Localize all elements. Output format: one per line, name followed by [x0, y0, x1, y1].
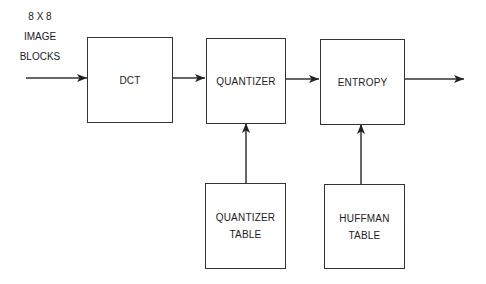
quantizer-block: QUANTIZER [206, 38, 286, 124]
input-label: 8 X 8 IMAGE BLOCKS [10, 7, 70, 67]
huffman-table-label-line: TABLE [349, 227, 381, 244]
quantizer-table-label-line: QUANTIZER [216, 209, 276, 226]
input-label-line: 8 X 8 [10, 7, 70, 27]
quantizer-label: QUANTIZER [216, 73, 276, 90]
input-label-line: BLOCKS [10, 47, 70, 67]
quantizer-table-label-line: TABLE [230, 226, 262, 243]
quantizer-table-block: QUANTIZER TABLE [205, 183, 286, 269]
entropy-block: ENTROPY [320, 39, 405, 125]
dct-block: DCT [87, 37, 173, 123]
dct-label: DCT [119, 72, 140, 89]
entropy-label: ENTROPY [338, 74, 388, 91]
input-label-line: IMAGE [10, 27, 70, 47]
huffman-table-label-line: HUFFMAN [339, 210, 389, 227]
huffman-table-block: HUFFMAN TABLE [324, 184, 405, 269]
